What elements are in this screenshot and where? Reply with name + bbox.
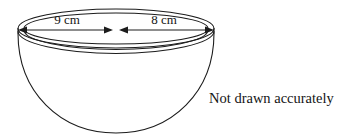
right-dimension-arrowhead-left: [119, 27, 128, 34]
right-dimension-label: 8 cm: [151, 12, 177, 27]
rim-inner-thickness-arc: [24, 31, 207, 50]
left-dimension-arrowhead-right: [104, 27, 113, 34]
rim-outer-ellipse: [18, 9, 214, 48]
bowl-diagram: 9 cm 8 cm Not drawn accurately: [0, 0, 354, 140]
rim-inner-ellipse: [24, 13, 208, 44]
left-dimension-label: 9 cm: [54, 12, 80, 27]
not-drawn-accurately-note: Not drawn accurately: [209, 90, 335, 106]
